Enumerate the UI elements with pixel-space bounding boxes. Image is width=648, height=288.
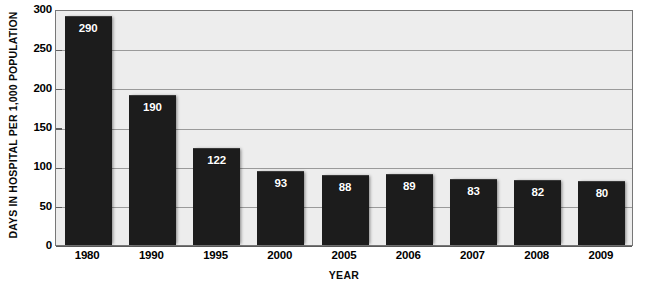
y-axis-tick-label: 0 bbox=[22, 240, 52, 252]
bar-group[interactable]: 80 bbox=[578, 9, 625, 245]
x-axis-tick-label: 2006 bbox=[376, 249, 440, 262]
bar-value-label: 82 bbox=[514, 187, 561, 199]
bar-value-label: 83 bbox=[450, 186, 497, 198]
bar-value-label: 122 bbox=[193, 155, 240, 167]
x-axis-tick-label: 1990 bbox=[119, 249, 183, 262]
y-axis-tick-label: 200 bbox=[22, 83, 52, 95]
bar-value-label: 290 bbox=[65, 23, 112, 35]
bar-chart-figure: DAYS IN HOSPITAL PER 1,000 POPULATION 05… bbox=[0, 0, 648, 288]
y-axis-tick-label: 300 bbox=[22, 4, 52, 16]
y-axis-tick-labels: 050100150200250300 bbox=[22, 10, 52, 246]
x-axis-tick-label: 2008 bbox=[505, 249, 569, 262]
bar-group[interactable]: 88 bbox=[322, 9, 369, 245]
x-axis-tick-label: 1980 bbox=[55, 249, 119, 262]
bar[interactable]: 89 bbox=[386, 174, 433, 245]
bars-layer: 290190122938889838280 bbox=[56, 11, 632, 245]
y-axis-title-text: DAYS IN HOSPITAL PER 1,000 POPULATION bbox=[7, 12, 19, 239]
bar-group[interactable]: 122 bbox=[193, 9, 240, 245]
bar-value-label: 89 bbox=[386, 181, 433, 193]
bar-group[interactable]: 190 bbox=[129, 9, 176, 245]
y-axis-tick-label: 50 bbox=[22, 201, 52, 213]
x-axis-tick-label: 2000 bbox=[248, 249, 312, 262]
x-axis-tick-label: 2007 bbox=[440, 249, 504, 262]
x-axis-title: YEAR bbox=[55, 269, 633, 281]
bar[interactable]: 80 bbox=[578, 181, 625, 245]
bar[interactable]: 83 bbox=[450, 179, 497, 245]
plot-area: 290190122938889838280 bbox=[55, 10, 633, 246]
y-axis-tick-label: 150 bbox=[22, 122, 52, 134]
bar-group[interactable]: 290 bbox=[65, 9, 112, 245]
y-axis-tick-label: 250 bbox=[22, 44, 52, 56]
bar[interactable]: 82 bbox=[514, 180, 561, 246]
x-axis-tick-label: 2005 bbox=[312, 249, 376, 262]
y-axis-tick-label: 100 bbox=[22, 162, 52, 174]
bar-group[interactable]: 82 bbox=[514, 9, 561, 245]
bar-group[interactable]: 89 bbox=[386, 9, 433, 245]
x-axis-tick-labels: 198019901995200020052006200720082009 bbox=[55, 249, 633, 267]
bar-value-label: 80 bbox=[578, 188, 625, 200]
bar[interactable]: 93 bbox=[257, 171, 304, 245]
bar-value-label: 93 bbox=[257, 178, 304, 190]
bar-group[interactable]: 83 bbox=[450, 9, 497, 245]
bar-value-label: 88 bbox=[322, 182, 369, 194]
bar-value-label: 190 bbox=[129, 102, 176, 114]
bar[interactable]: 88 bbox=[322, 175, 369, 245]
bar[interactable]: 122 bbox=[193, 148, 240, 245]
bar[interactable]: 190 bbox=[129, 95, 176, 245]
bar-group[interactable]: 93 bbox=[257, 9, 304, 245]
x-axis-tick-label: 1995 bbox=[183, 249, 247, 262]
bar[interactable]: 290 bbox=[65, 16, 112, 245]
x-axis-tick-label: 2009 bbox=[569, 249, 633, 262]
gridline bbox=[56, 246, 632, 248]
